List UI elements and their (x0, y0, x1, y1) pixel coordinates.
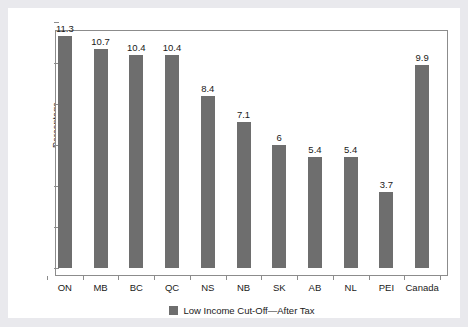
x-axis-tick-mark (226, 276, 227, 280)
bar-value-label: 11.3 (39, 23, 91, 34)
bar-value-label: 8.4 (182, 83, 234, 94)
bar-value-label: 10.4 (146, 42, 198, 53)
bar-value-label: 3.7 (360, 179, 412, 190)
bar (237, 122, 251, 268)
chart-figure: Percentage 024681012 ONMBBCQCNSNBSKABNLP… (0, 0, 468, 327)
chart-legend: Low Income Cut-Off—After Tax (8, 305, 468, 316)
x-axis-tick-mark (47, 276, 48, 280)
bar (344, 157, 358, 268)
y-axis-tick-mark (54, 268, 59, 269)
x-axis-tick-mark (154, 276, 155, 280)
x-axis-tick-mark (369, 276, 370, 280)
legend-label: Low Income Cut-Off—After Tax (183, 305, 314, 316)
chart-card: Percentage 024681012 ONMBBCQCNSNBSKABNLP… (8, 8, 460, 318)
bar (379, 192, 393, 268)
bar-value-label: 7.1 (218, 109, 270, 120)
bar (308, 157, 322, 268)
x-axis-tick-mark (190, 276, 191, 280)
x-axis-tick-mark (297, 276, 298, 280)
bar (94, 49, 108, 268)
bar-value-label: 5.4 (325, 144, 377, 155)
x-axis-tick-mark (333, 276, 334, 280)
legend-swatch-icon (169, 306, 178, 315)
x-axis-tick-mark (83, 276, 84, 280)
x-axis-tick-mark (440, 276, 441, 280)
bar (58, 36, 72, 268)
bar (201, 96, 215, 268)
x-axis-label: Canada (396, 282, 448, 293)
bar (415, 65, 429, 268)
bar (165, 55, 179, 268)
bar (129, 55, 143, 268)
bar-value-label: 6 (253, 132, 305, 143)
x-axis-tick-mark (261, 276, 262, 280)
x-axis-tick-mark (404, 276, 405, 280)
x-axis-tick-mark (118, 276, 119, 280)
bar-value-label: 9.9 (396, 52, 448, 63)
bar (272, 145, 286, 268)
